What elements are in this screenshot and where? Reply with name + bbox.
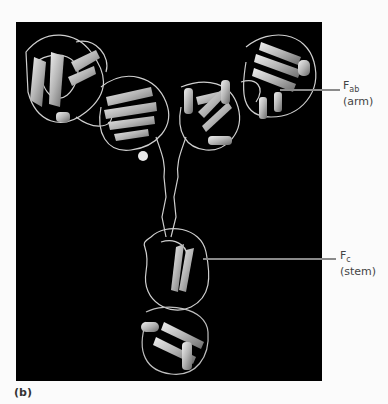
fc-leader-line bbox=[203, 258, 336, 260]
antibody-structure-image bbox=[16, 22, 322, 381]
fab-label-desc: (arm) bbox=[343, 96, 373, 108]
fc-label-sub: c bbox=[346, 255, 350, 264]
panel-letter: (b) bbox=[14, 386, 32, 399]
protein-ribbon-illustration bbox=[16, 22, 322, 381]
fab-label-sub: ab bbox=[349, 85, 359, 94]
fc-label: Fc (stem) bbox=[340, 250, 376, 278]
fab-label: Fab (arm) bbox=[343, 80, 373, 108]
fc-label-desc: (stem) bbox=[340, 266, 376, 278]
hinge-region bbox=[156, 137, 186, 237]
fab-leader-line bbox=[280, 89, 340, 91]
